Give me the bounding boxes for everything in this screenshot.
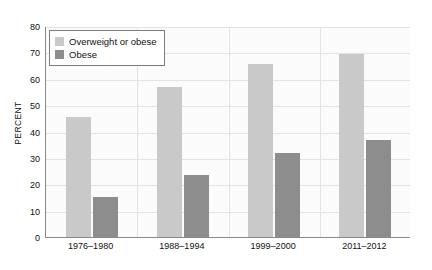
legend-label: Overweight or obese	[69, 36, 157, 47]
y-tick-label: 30	[14, 154, 40, 164]
x-axis-ticks: 1976–19801988–19941999–20002011–2012	[45, 241, 410, 263]
y-tick-label: 10	[14, 207, 40, 217]
y-tick-label: 20	[14, 180, 40, 190]
bar	[248, 64, 273, 237]
bar-group	[229, 27, 320, 237]
y-tick-label: 40	[14, 128, 40, 138]
bar	[184, 175, 209, 237]
x-tick-label: 2011–2012	[342, 241, 386, 251]
y-tick-label: 50	[14, 101, 40, 111]
y-tick-label: 0	[14, 233, 40, 243]
legend-swatch-icon-dark	[55, 50, 64, 59]
bar	[275, 153, 300, 237]
bar	[157, 87, 182, 237]
bar	[93, 197, 118, 237]
y-tick-label: 80	[14, 22, 40, 32]
y-tick-label: 60	[14, 75, 40, 85]
bar-chart: PERCENT 01020304050607080 1976–19801988–…	[0, 0, 432, 270]
y-tick-label: 70	[14, 48, 40, 58]
bar	[366, 140, 391, 237]
legend-label: Obese	[69, 49, 97, 60]
legend-item-obese: Obese	[55, 48, 157, 61]
legend-swatch-icon-light	[55, 37, 64, 46]
x-tick-label: 1999–2000	[251, 241, 296, 251]
x-tick-label: 1988–1994	[159, 241, 204, 251]
legend: Overweight or obese Obese	[49, 30, 165, 66]
bar-group	[320, 27, 411, 237]
y-axis-ticks: 01020304050607080	[0, 27, 45, 238]
legend-item-overweight-or-obese: Overweight or obese	[55, 35, 157, 48]
bar	[66, 117, 91, 237]
bar	[339, 54, 364, 237]
x-tick-label: 1976–1980	[68, 241, 113, 251]
